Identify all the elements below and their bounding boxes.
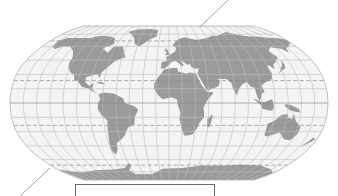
caption-box [75, 184, 215, 196]
world-map-figure [0, 0, 338, 196]
bottom-left-leader [20, 168, 50, 196]
world-map [0, 0, 338, 196]
top-right-leader [200, 0, 228, 27]
